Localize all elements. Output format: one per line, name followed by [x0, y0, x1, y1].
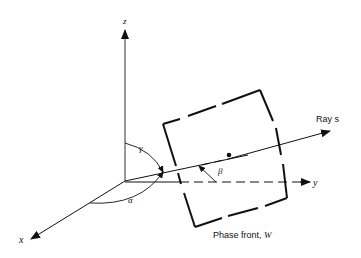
z-axis-label: z	[122, 16, 127, 26]
beta-label: β	[217, 166, 223, 176]
phase-front-symbol: W	[264, 230, 273, 240]
gamma-label: γ	[139, 143, 143, 153]
ray-phase-front-diagram: z x y Ray s Phase front, W	[0, 0, 361, 258]
phase-front	[163, 90, 287, 227]
x-axis-label: x	[18, 234, 24, 245]
ray-point	[227, 153, 232, 158]
gamma-arc	[125, 143, 163, 172]
y-axis-label: y	[312, 177, 318, 188]
alpha-arc	[90, 172, 163, 203]
ray-label: Ray s	[316, 114, 340, 124]
x-axis	[31, 181, 125, 239]
phase-front-label: Phase front, W	[213, 230, 273, 240]
alpha-label: α	[128, 195, 133, 205]
ray-s	[125, 131, 330, 181]
beta-arc	[199, 166, 216, 182]
